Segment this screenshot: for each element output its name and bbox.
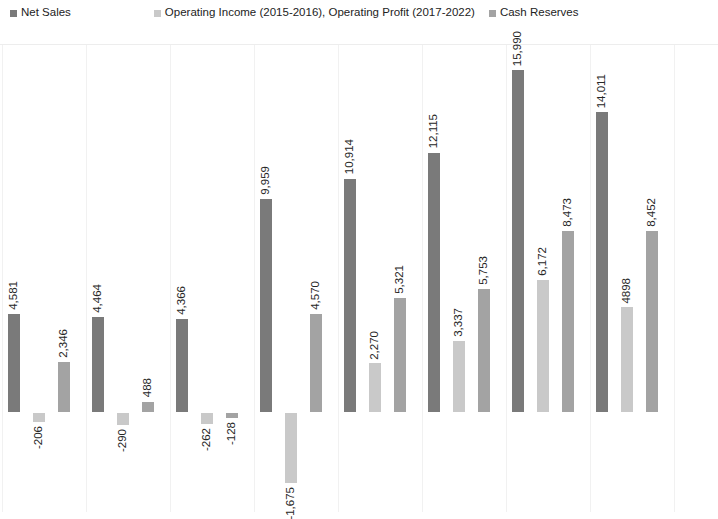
bar[interactable] <box>369 363 381 412</box>
bar[interactable] <box>285 413 297 483</box>
bar[interactable] <box>537 280 549 412</box>
bar-group: 4,366-262-128 <box>176 45 260 512</box>
bar[interactable] <box>117 413 129 425</box>
bar[interactable] <box>596 112 608 412</box>
bar-value-label: 2,270 <box>369 331 381 360</box>
chart-plot-area: 4,581-2062,3464,464-2904884,366-262-1289… <box>0 44 718 512</box>
bar-slot: 4898 <box>621 45 633 512</box>
bar-value-label: 15,990 <box>512 31 524 66</box>
bar-group: 15,9906,1728,473 <box>512 45 596 512</box>
bar-slot: 10,914 <box>344 45 356 512</box>
bar-value-label: 8,452 <box>646 198 658 227</box>
bar-slot: 15,990 <box>512 45 524 512</box>
bar-value-label: 6,172 <box>537 247 549 276</box>
bar-value-label: 4,570 <box>310 281 322 310</box>
bar-value-label: 3,337 <box>453 308 465 337</box>
legend-label: Operating Income (2015-2016), Operating … <box>165 7 475 19</box>
bar-slot: 2,270 <box>369 45 381 512</box>
bar-slot: -128 <box>226 45 238 512</box>
bar-value-label: -290 <box>117 429 129 452</box>
legend-entry-net-sales[interactable]: Net Sales <box>10 7 71 19</box>
bar-slot: -206 <box>33 45 45 512</box>
bar-slot: 8,473 <box>562 45 574 512</box>
bar[interactable] <box>310 314 322 412</box>
bar[interactable] <box>562 231 574 412</box>
bar[interactable] <box>8 314 20 412</box>
bar-slot: 5,753 <box>478 45 490 512</box>
bar-value-label: 10,914 <box>344 139 356 174</box>
legend-entry-cash-reserves[interactable]: Cash Reserves <box>489 7 579 19</box>
bar-group: 10,9142,2705,321 <box>344 45 428 512</box>
bar[interactable] <box>92 317 104 413</box>
bar-group: 14,01148988,452 <box>596 45 680 512</box>
bar-group: 12,1153,3375,753 <box>428 45 512 512</box>
bar[interactable] <box>176 319 188 412</box>
square-swatch-icon <box>154 10 161 17</box>
bar-slot: 6,172 <box>537 45 549 512</box>
bar-value-label: 4,581 <box>8 281 20 310</box>
legend-label: Net Sales <box>21 7 71 19</box>
bar[interactable] <box>33 413 45 422</box>
bar-slot: 14,011 <box>596 45 608 512</box>
bar-slot: 4,570 <box>310 45 322 512</box>
bar-value-label: -262 <box>201 428 213 451</box>
bar[interactable] <box>260 199 272 412</box>
bar[interactable] <box>428 153 440 412</box>
bar-group: 4,464-290488 <box>92 45 176 512</box>
bar-value-label: 5,753 <box>478 256 490 285</box>
bar-value-label: 5,321 <box>394 265 406 294</box>
bar-slot: 4,581 <box>8 45 20 512</box>
bar[interactable] <box>226 413 238 418</box>
chart-legend: Net Sales Operating Income (2015-2016), … <box>0 0 718 26</box>
bar-slot: 12,115 <box>428 45 440 512</box>
legend-label: Cash Reserves <box>500 7 579 19</box>
bar-value-label: 14,011 <box>596 74 608 108</box>
bar-group: 4,581-2062,346 <box>8 45 92 512</box>
bar-value-label: 4,464 <box>92 284 104 313</box>
bar[interactable] <box>201 413 213 424</box>
bar-value-label: 2,346 <box>58 329 70 358</box>
bar-slot: -1,675 <box>285 45 297 512</box>
bar-slot: 9,959 <box>260 45 272 512</box>
legend-entry-operating-income[interactable]: Operating Income (2015-2016), Operating … <box>154 7 475 19</box>
bar-slot: -262 <box>201 45 213 512</box>
bar-value-label: -128 <box>226 422 238 445</box>
bar[interactable] <box>142 402 154 412</box>
bar-slot: 3,337 <box>453 45 465 512</box>
bar[interactable] <box>621 307 633 412</box>
bar[interactable] <box>478 289 490 412</box>
square-swatch-icon <box>489 10 496 17</box>
bar-slot: 488 <box>142 45 154 512</box>
bar-slot: 8,452 <box>646 45 658 512</box>
bar-slot: 4,366 <box>176 45 188 512</box>
bar-value-label: 12,115 <box>428 114 440 148</box>
bar-group: 9,959-1,6754,570 <box>260 45 344 512</box>
bar[interactable] <box>58 362 70 412</box>
chart-bars-layer: 4,581-2062,3464,464-2904884,366-262-1289… <box>0 45 718 512</box>
bar-value-label: -1,675 <box>285 487 297 519</box>
square-swatch-icon <box>10 10 17 17</box>
bar-slot: 2,346 <box>58 45 70 512</box>
bar-value-label: 488 <box>142 378 154 397</box>
bar[interactable] <box>512 70 524 412</box>
bar-value-label: 8,473 <box>562 198 574 227</box>
bar[interactable] <box>394 298 406 412</box>
bar-value-label: 9,959 <box>260 166 272 195</box>
bar-slot: 5,321 <box>394 45 406 512</box>
bar-value-label: -206 <box>33 426 45 449</box>
bar-slot: -290 <box>117 45 129 512</box>
bar[interactable] <box>646 231 658 412</box>
bar-value-label: 4,366 <box>176 286 188 315</box>
bar-value-label: 4898 <box>621 278 633 304</box>
bar-slot: 4,464 <box>92 45 104 512</box>
bar[interactable] <box>453 341 465 412</box>
bar[interactable] <box>344 179 356 413</box>
